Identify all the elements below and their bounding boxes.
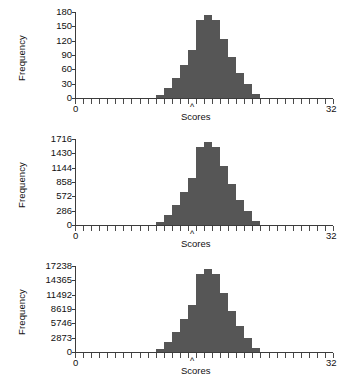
histogram-bar — [180, 192, 188, 225]
histogram-bar — [244, 84, 252, 98]
x-axis-tick-mark — [180, 99, 181, 104]
x-axis-label: Scores — [181, 366, 211, 376]
x-axis-tick-mark — [180, 226, 181, 231]
y-axis-tick-label: 30 — [61, 79, 72, 89]
x-axis-tick-mark — [269, 99, 270, 104]
histogram-bar — [228, 311, 236, 352]
histogram-bar — [164, 215, 172, 225]
x-axis-tick-mark — [204, 226, 205, 231]
x-axis-tick-mark — [156, 353, 157, 358]
x-axis-tick-mark — [196, 353, 197, 358]
y-axis-tick-label: 17238 — [46, 261, 72, 271]
histogram-bar — [212, 147, 220, 225]
x-axis-label: Scores — [181, 112, 211, 122]
y-axis-tick-labels: 0287357468619114921436517238 — [22, 266, 72, 352]
histogram-bars — [75, 12, 333, 98]
x-axis-tick-mark — [148, 99, 149, 104]
x-axis-tick-mark — [260, 99, 261, 104]
mean-marker-caret: ^ — [190, 358, 194, 365]
mean-marker-caret: ^ — [190, 104, 194, 111]
x-axis-tick-mark — [212, 226, 213, 231]
histogram-bar — [172, 205, 180, 225]
y-axis-tick-label: 120 — [56, 36, 72, 46]
histogram-bar — [196, 20, 204, 98]
x-axis-tick-mark — [236, 99, 237, 104]
x-axis-tick-mark — [148, 226, 149, 231]
x-axis-tick-mark — [115, 99, 116, 104]
x-axis-tick-mark — [236, 226, 237, 231]
histogram-bar — [188, 178, 196, 226]
x-axis-tick-mark — [91, 226, 92, 231]
x-axis-tick-mark — [115, 226, 116, 231]
x-axis-tick-mark — [228, 226, 229, 231]
x-axis-label: Scores — [181, 239, 211, 249]
x-axis-tick-mark — [228, 353, 229, 358]
histogram-bar — [228, 184, 236, 225]
x-axis-tick-mark — [204, 99, 205, 104]
histogram-bar — [156, 222, 164, 225]
x-axis-tick-mark — [83, 353, 84, 358]
plot-area — [75, 139, 333, 225]
histogram-bar — [172, 332, 180, 352]
x-axis-tick-mark — [269, 226, 270, 231]
x-axis-tick-mark — [309, 99, 310, 104]
x-axis-tick-mark — [220, 353, 221, 358]
x-axis-tick-mark — [293, 99, 294, 104]
x-axis-tick-mark — [236, 353, 237, 358]
x-axis-tick-mark — [252, 353, 253, 358]
histogram-bar — [212, 20, 220, 98]
y-axis-tick-label: 5746 — [51, 319, 72, 329]
x-axis-tick-mark — [244, 226, 245, 231]
x-axis-tick-mark — [285, 226, 286, 231]
x-axis-tick-mark — [301, 99, 302, 104]
figure-three-histograms: Frequency0306090120150180032^Scores Freq… — [0, 0, 350, 382]
x-axis-tick-mark — [156, 99, 157, 104]
x-axis-tick-mark — [140, 99, 141, 104]
x-axis-tick-mark — [212, 99, 213, 104]
x-axis-tick-mark — [196, 226, 197, 231]
x-axis-tick-mark — [91, 99, 92, 104]
x-axis-tick-mark — [123, 99, 124, 104]
histogram-bar — [236, 73, 244, 98]
y-axis-tick-label: 14365 — [46, 276, 72, 286]
y-axis-tick-label: 8619 — [51, 304, 72, 314]
x-axis-tick-mark — [164, 226, 165, 231]
histogram-bar — [204, 269, 212, 352]
x-axis-tick-mark — [156, 226, 157, 231]
y-axis-tick-label: 572 — [56, 192, 72, 202]
x-axis-tick-mark — [301, 226, 302, 231]
histogram-bar — [172, 78, 180, 98]
x-axis-tick-mark — [131, 353, 132, 358]
y-axis-tick-label: 858 — [56, 177, 72, 187]
y-axis-tick-label: 150 — [56, 22, 72, 32]
x-axis-max-label: 32 — [326, 358, 337, 368]
y-axis-tick-label: 2873 — [51, 333, 72, 343]
histogram-bar — [212, 274, 220, 352]
chart-histogram-middle: Frequency0286572858114414301716032^Score… — [0, 127, 350, 254]
x-axis-tick-mark — [83, 226, 84, 231]
x-axis-tick-mark — [220, 226, 221, 231]
x-axis-tick-mark — [180, 353, 181, 358]
histogram-bar — [252, 221, 260, 225]
histogram-bar — [188, 305, 196, 352]
histogram-bars — [75, 266, 333, 352]
x-axis-tick-mark — [228, 99, 229, 104]
histogram-bars — [75, 139, 333, 225]
x-axis-tick-mark — [172, 226, 173, 231]
x-axis-tick-mark — [252, 226, 253, 231]
x-axis-tick-mark — [83, 99, 84, 104]
x-axis-tick-mark — [204, 353, 205, 358]
x-axis-tick-mark — [277, 99, 278, 104]
x-axis-tick-mark — [293, 353, 294, 358]
y-axis-tick-label: 1430 — [51, 149, 72, 159]
x-axis-tick-mark — [260, 226, 261, 231]
y-axis-tick-label: 180 — [56, 7, 72, 17]
histogram-bar — [244, 211, 252, 225]
x-axis-tick-mark — [285, 353, 286, 358]
x-axis-tick-mark — [107, 353, 108, 358]
histogram-bar — [228, 57, 236, 98]
x-axis-tick-mark — [188, 353, 189, 358]
x-axis-tick-mark — [196, 99, 197, 104]
histogram-bar — [220, 166, 228, 225]
x-axis-tick-mark — [107, 226, 108, 231]
